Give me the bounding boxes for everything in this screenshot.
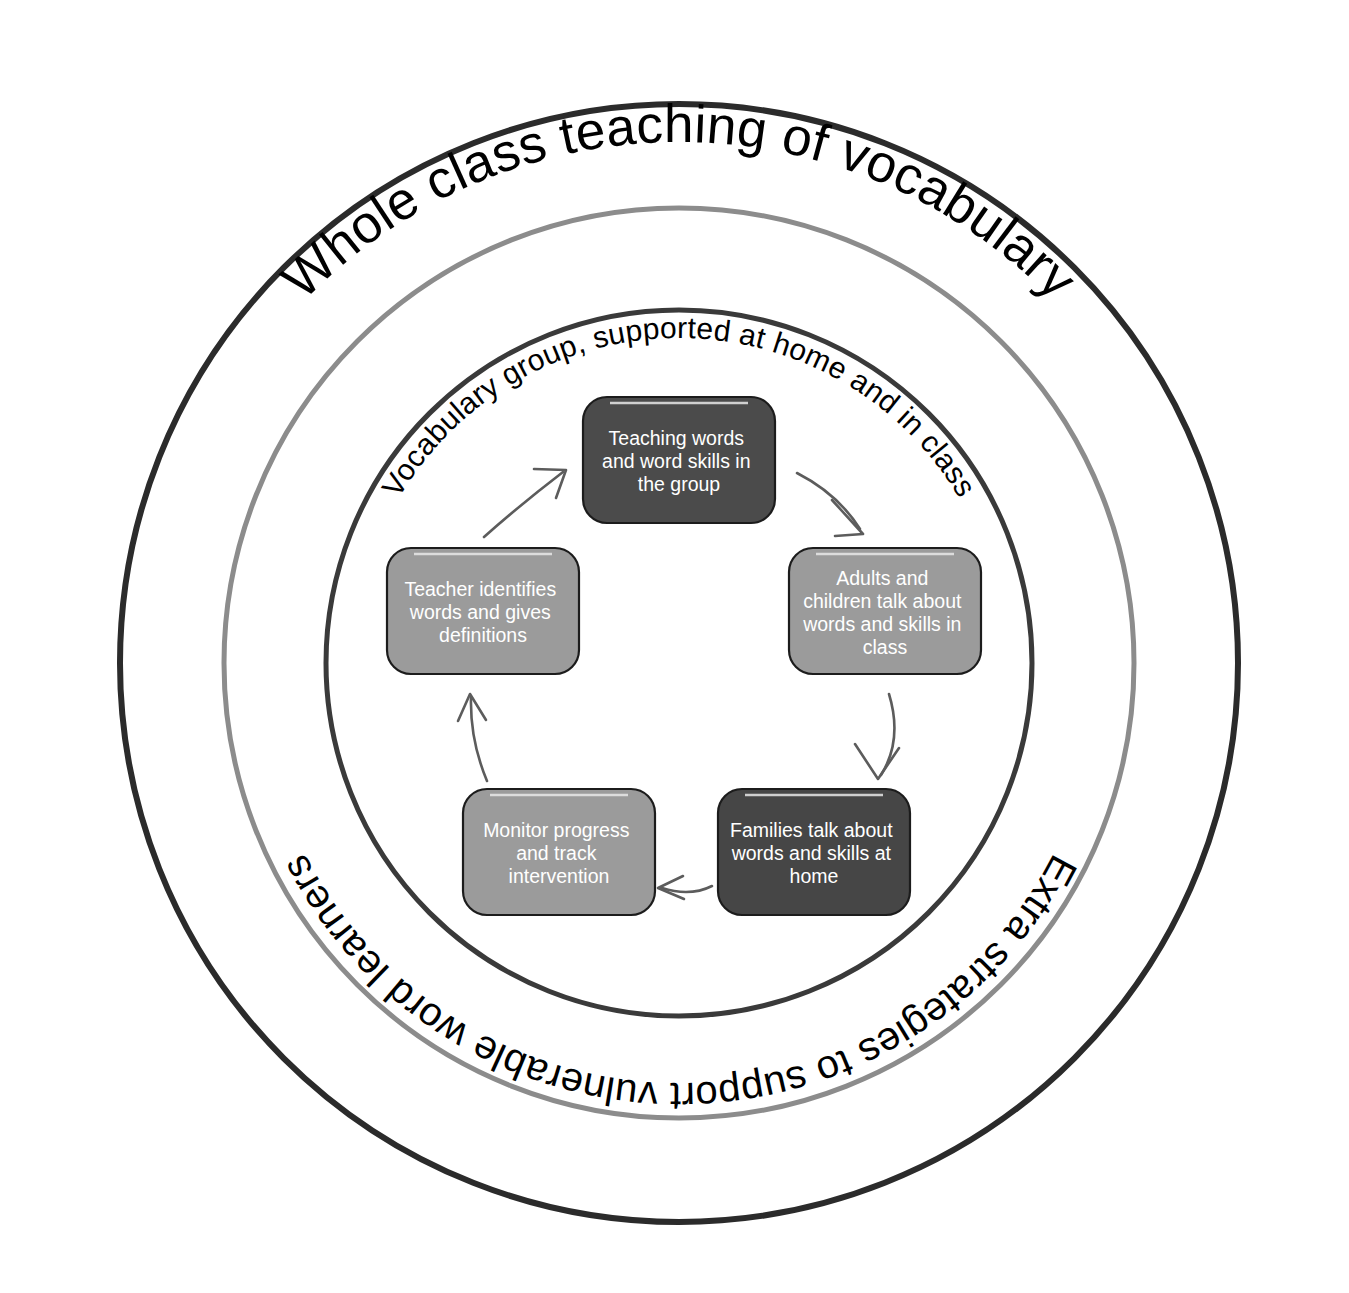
teacher-identifies-box[interactable]: Teacher identifies words and gives defin… — [387, 548, 579, 674]
families-talk-line-1: Families talk about — [730, 819, 893, 841]
teacher-identifies-line-3: definitions — [439, 624, 527, 646]
teaching-words-line-2: and word skills in — [602, 450, 750, 472]
adults-children-line-3: words and skills in — [802, 613, 961, 635]
teacher-identifies-line-1: Teacher identifies — [404, 578, 556, 600]
arrow-adults-to-families-icon — [855, 694, 899, 779]
middle-ring-label: Extra strategies to support vulnerable w… — [272, 848, 1086, 1119]
monitor-progress-line-2: and track — [516, 842, 596, 864]
vocabulary-circles-diagram: Whole class teaching of vocabulary Extra… — [0, 0, 1349, 1293]
families-talk-line-2: words and skills at — [731, 842, 892, 864]
arrow-families-to-monitor-icon — [658, 876, 712, 899]
middle-ring-label-textpath: Extra strategies to support vulnerable w… — [272, 848, 1086, 1119]
teacher-identifies-line-2: words and gives — [409, 601, 551, 623]
families-talk-line-3: home — [790, 865, 839, 887]
monitor-progress-line-3: intervention — [509, 865, 610, 887]
monitor-progress-box[interactable]: Monitor progress and track intervention — [463, 789, 655, 915]
outer-ring-label-textpath: Whole class teaching of vocabulary — [270, 94, 1088, 310]
teaching-words-line-3: the group — [638, 473, 721, 495]
arrow-teaching-to-adults-icon — [797, 473, 863, 536]
monitor-progress-line-1: Monitor progress — [483, 819, 630, 841]
adults-children-line-1: Adults and — [836, 567, 928, 589]
arrow-monitor-to-teacher-icon — [458, 694, 487, 781]
outer-ring-label: Whole class teaching of vocabulary — [270, 94, 1088, 310]
teaching-words-line-1: Teaching words — [609, 427, 745, 449]
teaching-words-box[interactable]: Teaching words and word skills in the gr… — [583, 397, 775, 523]
arrow-teacher-to-teaching-icon — [484, 469, 566, 537]
adults-children-line-2: children talk about — [803, 590, 962, 612]
node-group: Teaching words and word skills in the gr… — [387, 397, 981, 915]
diagram-canvas: Whole class teaching of vocabulary Extra… — [0, 0, 1349, 1293]
adults-children-line-4: class — [863, 636, 908, 658]
families-talk-box[interactable]: Families talk about words and skills at … — [718, 789, 910, 915]
adults-children-talk-box[interactable]: Adults and children talk about words and… — [789, 548, 981, 674]
